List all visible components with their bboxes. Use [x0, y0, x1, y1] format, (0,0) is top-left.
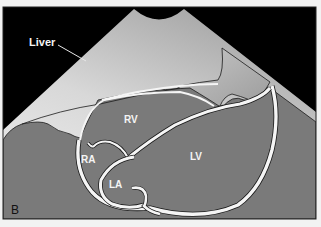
label-la: LA	[109, 179, 122, 190]
panel-label: B	[11, 203, 19, 217]
label-rv: RV	[124, 114, 138, 125]
label-ra: RA	[81, 154, 95, 165]
echo-diagram-figure: Liver RV RA LA LV B	[0, 0, 321, 227]
label-lv: LV	[190, 151, 202, 162]
label-liver: Liver	[29, 36, 56, 48]
echo-diagram-svg: Liver RV RA LA LV B	[0, 0, 321, 227]
